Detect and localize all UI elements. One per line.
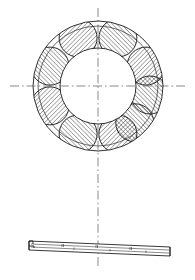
plan-view <box>10 8 186 266</box>
figure-svg <box>0 0 195 280</box>
section-body-fill <box>29 241 170 256</box>
technical-drawing <box>0 0 195 280</box>
section-view <box>29 241 170 256</box>
figure-caption <box>0 271 195 280</box>
